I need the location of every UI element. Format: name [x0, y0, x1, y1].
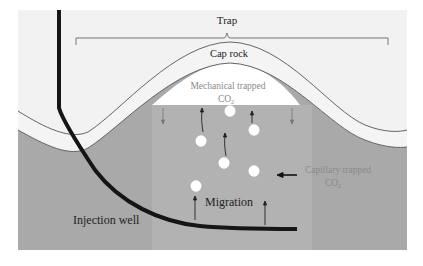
mechanical-trapped-label: Mechanical trapped	[190, 81, 265, 91]
migration-label: Migration	[205, 195, 253, 209]
cap-rock-label: Cap rock	[210, 48, 249, 59]
injection-well-label: Injection well	[73, 213, 140, 227]
co2-bubble	[196, 135, 207, 147]
co2-bubble	[249, 165, 260, 177]
mechanical-co-text: CO	[218, 94, 231, 104]
co2-bubble	[249, 124, 260, 136]
mechanical-subscript: 2	[231, 99, 234, 105]
co2-bubble	[191, 180, 202, 192]
trap-label: Trap	[217, 14, 238, 26]
co2-bubble	[225, 105, 236, 117]
capillary-trapped-label: Capillary trapped	[305, 165, 371, 175]
co2-trapping-diagram: Trap Cap rock Mechanical trapped CO2 Cap…	[0, 0, 423, 266]
capillary-co-text: CO	[325, 178, 338, 188]
co2-bubble	[219, 157, 230, 169]
capillary-subscript: 2	[338, 183, 341, 189]
